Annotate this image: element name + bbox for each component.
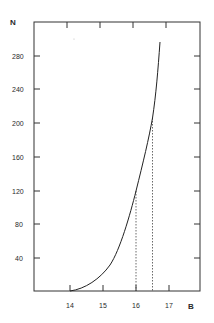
x-tick-labels: 14 15 16 17 — [66, 302, 173, 309]
x-tick-label: 17 — [165, 302, 173, 309]
data-curve — [70, 42, 160, 291]
y-tick-label: 40 — [15, 255, 23, 262]
chart: 280 240 200 160 120 80 40 14 15 16 17 N … — [0, 0, 214, 323]
y-axis-label: N — [10, 18, 16, 27]
y-tick-label: 80 — [15, 221, 23, 228]
x-tick-label: 16 — [132, 302, 140, 309]
y-ticks-left — [34, 56, 40, 258]
y-tick-label: 240 — [12, 86, 24, 93]
y-tick-labels: 280 240 200 160 120 80 40 — [12, 53, 24, 262]
y-tick-label: 200 — [12, 120, 24, 127]
x-tick-label: 14 — [66, 302, 74, 309]
y-ticks-right — [194, 56, 200, 258]
x-axis-label: B — [188, 302, 194, 311]
x-ticks-bottom — [70, 285, 169, 291]
y-tick-label: 160 — [12, 154, 24, 161]
x-ticks-top — [67, 22, 166, 28]
y-tick-label: 120 — [12, 188, 24, 195]
y-tick-label: 280 — [12, 53, 24, 60]
x-tick-label: 15 — [99, 302, 107, 309]
speck — [73, 38, 74, 39]
